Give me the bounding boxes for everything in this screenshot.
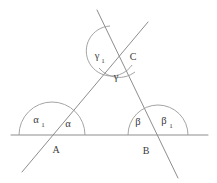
angle-label-alpha-1-glyph: α	[33, 114, 39, 125]
angle-label-gamma-1-subscript: 1	[101, 57, 105, 65]
angle-label-gamma-1: γ 1	[94, 50, 106, 64]
vertex-label-C: C	[130, 51, 137, 62]
geometry-canvas: A B C α 1 α β β 1 γ 1 γ	[0, 0, 217, 183]
line-through-A-and-C	[22, 22, 148, 172]
vertex-label-B: B	[143, 145, 150, 156]
angle-label-gamma-1-glyph: γ	[94, 50, 100, 61]
angle-label-alpha-1-subscript: 1	[41, 121, 45, 129]
vertex-label-A: A	[52, 144, 60, 155]
angle-label-alpha-1: α 1	[33, 114, 45, 128]
angle-label-alpha: α	[65, 118, 71, 129]
angle-label-beta-glyph: β	[135, 116, 140, 127]
geometry-figure: A B C α 1 α β β 1 γ 1 γ	[0, 0, 217, 183]
angle-label-gamma: γ	[113, 71, 119, 82]
angle-label-alpha-glyph: α	[65, 118, 71, 129]
angle-label-beta: β	[135, 116, 140, 127]
angle-label-beta-1: β 1	[161, 115, 173, 129]
arc-at-A	[19, 102, 85, 135]
angle-label-beta-1-subscript: 1	[169, 122, 173, 130]
angle-label-beta-1-glyph: β	[161, 115, 166, 126]
angle-label-gamma-glyph: γ	[113, 71, 119, 82]
